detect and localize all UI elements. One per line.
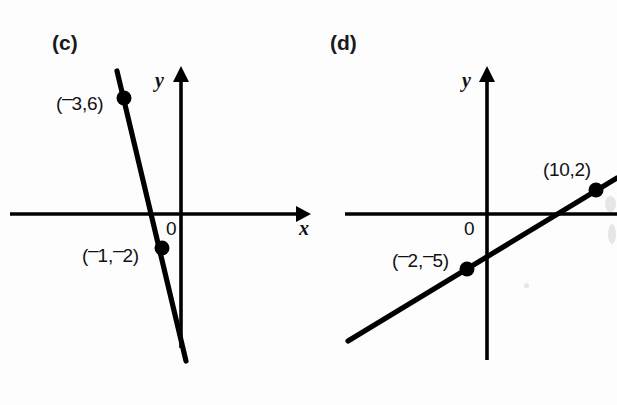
graph-panel-d: (d) y 0 (10,2) (–2,–5): [312, 0, 617, 405]
x-axis-c: [10, 206, 311, 222]
scan-artifact-2: [608, 224, 616, 244]
graph-panel-c: (c) y x 0 (–3,6) (–1,–: [0, 0, 312, 405]
panel-d-graphics: [312, 0, 617, 405]
plotted-line-d: [348, 178, 617, 341]
data-point-d-2: [589, 183, 604, 198]
origin-label-d: 0: [464, 219, 475, 238]
scan-artifact-1: [605, 196, 616, 212]
data-point-c-1: [117, 91, 132, 106]
y-axis-label-c: y: [155, 70, 164, 90]
panel-c-graphics: [0, 0, 312, 405]
data-point-c-2: [155, 241, 170, 256]
figure-root: (c) y x 0 (–3,6) (–1,–: [0, 0, 617, 405]
data-point-d-1: [460, 262, 475, 277]
point-label-d-1: (10,2): [543, 160, 591, 179]
point-label-d-2: (–2,–5): [392, 245, 449, 270]
point-label-c-2: (–1,–2): [82, 240, 139, 265]
y-axis-label-d: y: [462, 70, 471, 90]
point-label-c-1: (–3,6): [56, 88, 103, 113]
origin-label-c: 0: [166, 219, 177, 238]
x-axis-label-c: x: [299, 218, 309, 238]
plotted-line-c: [117, 71, 186, 361]
scan-artifact-3: [524, 283, 529, 288]
